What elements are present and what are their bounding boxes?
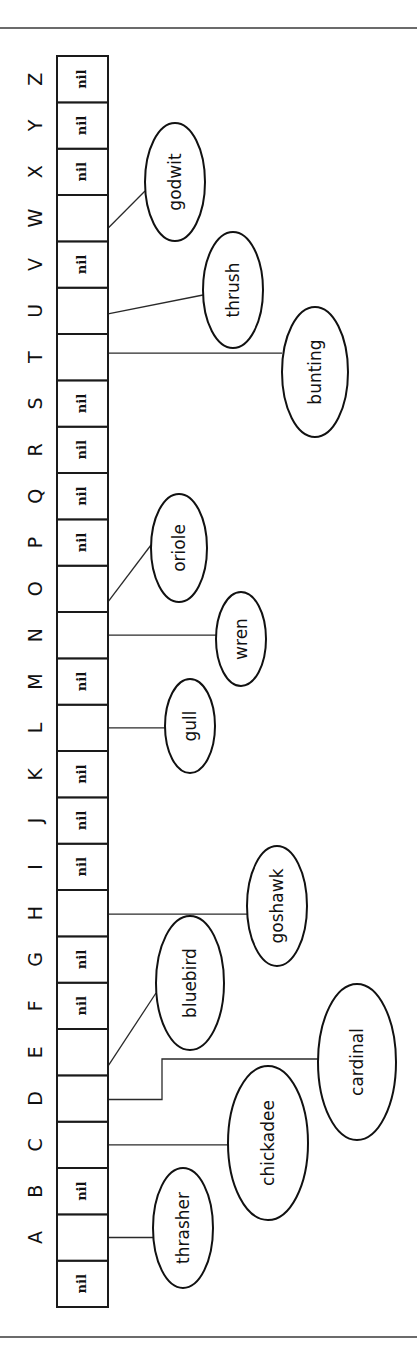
bucket-cell (57, 1122, 108, 1168)
bucket-cell: nil (57, 102, 108, 148)
bucket-cell: nil (57, 241, 108, 287)
bucket-cell: nil (57, 983, 108, 1029)
nil-value: nil (74, 811, 89, 830)
hash-table-diagram: nilnilnilnilnilnilnilnilnilnilnilnilniln… (0, 0, 417, 1353)
bucket-array: nilnilnilnilnilnilnilnilnilnilnilnilniln… (57, 56, 108, 1307)
node-label: bluebird (180, 948, 200, 1018)
bird-node: goshawk (247, 846, 307, 966)
nil-value: nil (74, 116, 89, 135)
nil-value: nil (74, 950, 89, 969)
bucket-key-label: W (24, 209, 46, 228)
bucket-key-label: T (24, 351, 46, 364)
nil-value: nil (74, 764, 89, 783)
bucket-key-label: F (24, 1000, 46, 1011)
bird-node: oriole (151, 494, 207, 602)
bird-node: bluebird (156, 916, 224, 1050)
node-label: wren (231, 618, 251, 660)
bird-node: thrush (203, 232, 263, 348)
bird-node: bunting (282, 307, 348, 437)
nil-value: nil (74, 440, 89, 459)
bird-node: thrasher (153, 1168, 213, 1288)
bucket-key-label: E (24, 1046, 46, 1058)
node-label: goshawk (267, 868, 287, 943)
bucket-cell: nil (57, 797, 108, 843)
bucket-cell: nil (57, 56, 108, 102)
bucket-key-label: B (24, 1185, 46, 1198)
connector-line (108, 545, 151, 602)
bucket-key-label: J (24, 818, 46, 825)
bucket-key-label: S (24, 397, 46, 409)
nil-value: nil (74, 1274, 89, 1293)
connector-line (108, 191, 145, 228)
nil-value: nil (74, 255, 89, 274)
bucket-key-label: R (24, 443, 46, 456)
bucket-key-label: D (24, 1091, 46, 1106)
bucket-key-label: O (24, 581, 46, 596)
bucket-cell: nil (57, 1168, 108, 1214)
node-label: bunting (305, 339, 325, 404)
bird-node: cardinal (318, 984, 396, 1140)
bucket-cell (57, 705, 108, 751)
nil-value: nil (74, 672, 89, 691)
nil-value: nil (74, 394, 89, 413)
bucket-key-label: Q (24, 489, 46, 504)
bucket-key-label: I (24, 864, 46, 870)
bucket-cell: nil (57, 519, 108, 565)
nil-value: nil (74, 533, 89, 552)
bucket-key-label: U (24, 304, 46, 318)
bucket-key-label: L (24, 722, 46, 733)
connector-line (108, 993, 156, 1066)
bucket-cell (57, 288, 108, 334)
bucket-key-label: Y (24, 119, 46, 132)
bucket-cell: nil (57, 844, 108, 890)
bucket-key-labels: ABCDEFGHIJKLMNOPQRSTUVWXYZ (24, 73, 46, 1244)
bucket-cell: nil (57, 658, 108, 704)
bird-node: wren (216, 592, 266, 686)
bucket-cell (57, 890, 108, 936)
bucket-cell (57, 1075, 108, 1121)
bird-node: gull (165, 679, 215, 773)
bucket-key-label: K (24, 767, 46, 780)
bucket-key-label: P (24, 537, 46, 548)
bucket-cell (57, 1214, 108, 1260)
nil-value: nil (74, 486, 89, 505)
nil-value: nil (74, 69, 89, 88)
bucket-cell: nil (57, 427, 108, 473)
bucket-cell (57, 612, 108, 658)
nil-value: nil (74, 996, 89, 1015)
bucket-key-label: M (24, 673, 46, 689)
bucket-cell: nil (57, 751, 108, 797)
connector-line (108, 295, 203, 314)
bucket-cell (57, 334, 108, 380)
bird-nodes: thrasherchickadeecardinalbluebirdgoshawk… (145, 123, 396, 1288)
bucket-key-label: C (24, 1138, 46, 1151)
bucket-cell: nil (57, 1261, 108, 1307)
bucket-key-label: G (24, 952, 46, 967)
node-label: chickadee (258, 1100, 278, 1186)
node-label: thrasher (173, 1192, 193, 1264)
node-label: gull (180, 710, 200, 741)
node-label: oriole (169, 524, 189, 572)
bird-node: chickadee (228, 1066, 308, 1220)
node-label: thrush (223, 263, 243, 318)
node-label: godwit (165, 153, 185, 211)
bird-node: godwit (145, 123, 205, 241)
bucket-key-label: Z (24, 73, 46, 86)
bucket-key-label: V (24, 258, 46, 271)
bucket-cell: nil (57, 473, 108, 519)
nil-value: nil (74, 162, 89, 181)
nil-value: nil (74, 1181, 89, 1200)
bucket-cell (57, 195, 108, 241)
bucket-cell (57, 566, 108, 612)
bucket-key-label: H (24, 906, 46, 920)
bucket-cell: nil (57, 380, 108, 426)
bucket-key-label: A (24, 1231, 46, 1244)
bucket-cell: nil (57, 936, 108, 982)
bucket-key-label: X (24, 165, 46, 178)
bucket-key-label: N (24, 628, 46, 642)
nil-value: nil (74, 857, 89, 876)
bucket-cell (57, 1029, 108, 1075)
node-label: cardinal (347, 1028, 367, 1096)
bucket-cell: nil (57, 149, 108, 195)
